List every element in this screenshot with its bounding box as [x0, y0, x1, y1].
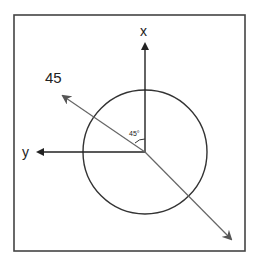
diagram-canvas: x y 45 45° [0, 0, 256, 264]
x-axis-label: x [140, 23, 147, 39]
y-axis-label: y [22, 144, 29, 160]
angle-arc [135, 139, 145, 143]
diagonal-label: 45 [45, 69, 62, 86]
angle-label: 45° [129, 130, 140, 137]
diagonal-arrow-lower [145, 152, 231, 239]
diagonal-arrow [63, 96, 145, 152]
